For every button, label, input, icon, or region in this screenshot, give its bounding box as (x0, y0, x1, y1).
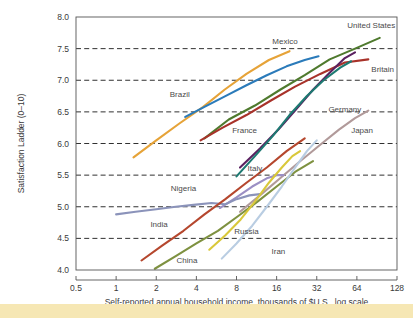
y-tick-label: 7.5 (57, 44, 69, 54)
series-line-britain (201, 59, 369, 140)
series-label-russia: Russia (234, 227, 259, 236)
series-label-united-states: United States (347, 21, 395, 30)
y-tick-label: 5.5 (57, 170, 69, 180)
series-label-iran: Iran (272, 247, 286, 256)
series-label-germany: Germany (328, 105, 361, 114)
x-tick-label: 4 (194, 283, 199, 293)
gridlines (76, 49, 397, 239)
x-axis: 0.51248163264128 (70, 276, 404, 293)
y-tick-label: 5.0 (57, 202, 69, 212)
y-tick-label: 4.0 (57, 265, 69, 275)
x-tick-label: 2 (154, 283, 159, 293)
bottom-color-band (0, 304, 413, 318)
series-label-mexico: Mexico (272, 37, 298, 46)
series-label-japan: Japan (351, 126, 373, 135)
y-tick-label: 6.5 (57, 107, 69, 117)
y-tick-label: 8.0 (57, 12, 69, 22)
x-tick-label: 0.5 (70, 283, 82, 293)
x-tick-label: 16 (272, 283, 282, 293)
y-axis: 8.07.57.06.56.05.55.04.54.0 (57, 12, 69, 275)
chart-canvas: 0.512481632641288.07.57.06.56.05.55.04.5… (0, 0, 413, 318)
x-tick-label: 128 (390, 283, 404, 293)
series-line-india (141, 138, 304, 260)
x-tick-label: 1 (114, 283, 119, 293)
y-tick-label: 6.0 (57, 139, 69, 149)
y-tick-label: 4.5 (57, 233, 69, 243)
x-tick-label: 64 (352, 283, 362, 293)
series-line-france (237, 61, 352, 176)
series-label-nigeria: Nigeria (171, 184, 197, 193)
series-label-brazil: Brazil (170, 90, 190, 99)
series-label-britain: Britain (371, 65, 394, 74)
satisfaction-income-chart: 0.512481632641288.07.57.06.56.05.55.04.5… (0, 0, 413, 318)
series-label-china: China (177, 256, 198, 265)
series-label-france: France (232, 126, 257, 135)
series-label-india: India (150, 220, 168, 229)
y-tick-label: 7.0 (57, 75, 69, 85)
series-label-italy: Italy (248, 164, 263, 173)
x-tick-label: 32 (312, 283, 322, 293)
y-axis-title: Satisfaction Ladder (0–10) (16, 93, 26, 193)
x-tick-label: 8 (234, 283, 239, 293)
